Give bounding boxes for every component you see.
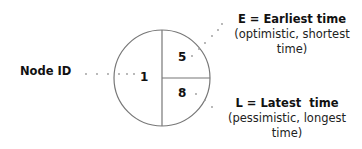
node-legend-diagram: Node ID 1 5 8 E = Earliest time (optimis… bbox=[0, 0, 362, 149]
earliest-leader-dots bbox=[191, 23, 223, 57]
earliest-time-title: E = Earliest time bbox=[222, 12, 362, 27]
node-id-leader-dots bbox=[85, 73, 135, 75]
latest-time-desc-line2: time) bbox=[212, 126, 362, 141]
earliest-time-desc-line1: (optimistic, shortest bbox=[222, 27, 362, 42]
latest-time-desc-line1: (pessimistic, longest bbox=[212, 111, 362, 126]
latest-time-value: 8 bbox=[178, 87, 186, 99]
earliest-time-legend: E = Earliest time (optimistic, shortest … bbox=[222, 12, 362, 57]
earliest-time-desc-line2: time) bbox=[222, 42, 362, 57]
earliest-time-value: 5 bbox=[178, 51, 186, 63]
node-id-value: 1 bbox=[140, 71, 148, 83]
latest-time-title: L = Latest time bbox=[212, 96, 362, 111]
latest-time-legend: L = Latest time (pessimistic, longest ti… bbox=[212, 96, 362, 141]
node-id-label: Node ID bbox=[20, 66, 71, 78]
